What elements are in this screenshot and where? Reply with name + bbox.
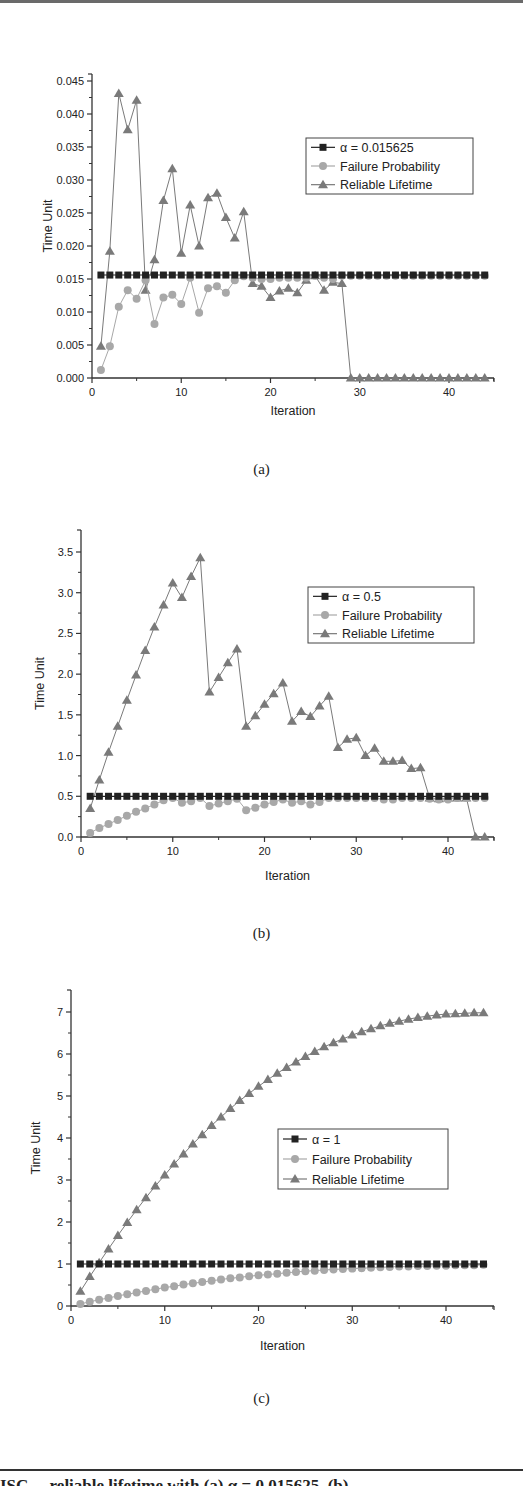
square-marker: [445, 793, 452, 800]
legend-label: α = 0.5: [342, 590, 381, 604]
circle-marker: [114, 816, 122, 824]
x-tick-label: 10: [167, 845, 179, 857]
square-marker: [454, 793, 461, 800]
triangle-marker: [379, 756, 389, 765]
legend-label: Failure Probability: [342, 609, 443, 623]
circle-marker: [86, 1298, 94, 1306]
circle-marker: [213, 282, 221, 290]
square-marker: [325, 793, 332, 800]
circle-marker: [76, 1300, 84, 1308]
legend-label: Failure Probability: [340, 160, 441, 174]
triangle-marker: [397, 755, 407, 764]
square-marker: [435, 793, 442, 800]
triangle-marker: [122, 695, 132, 704]
circle-marker: [288, 799, 296, 807]
square-marker: [240, 272, 247, 279]
triangle-marker: [212, 188, 222, 197]
square-marker: [171, 1261, 178, 1268]
legend-label: α = 0.015625: [340, 141, 414, 155]
circle-marker: [133, 295, 141, 303]
triangle-marker: [282, 1062, 292, 1071]
triangle-marker: [355, 373, 365, 382]
circle-marker: [142, 1287, 150, 1295]
triangle-marker: [177, 593, 187, 602]
y-tick-label: 0.040: [56, 108, 84, 120]
square-marker: [463, 793, 470, 800]
triangle-marker: [75, 1286, 85, 1295]
square-marker: [258, 272, 265, 279]
circle-marker: [204, 284, 212, 292]
circle-marker: [124, 286, 132, 294]
triangle-marker: [168, 578, 178, 587]
x-tick-label: 20: [252, 1314, 264, 1326]
square-marker: [246, 1261, 253, 1268]
square-marker: [471, 1261, 478, 1268]
square-marker: [199, 1261, 206, 1268]
y-tick-label: 1.0: [58, 750, 73, 762]
square-marker: [236, 1261, 243, 1268]
axes: 0.0000.0050.0100.0150.0200.0250.0300.035…: [56, 74, 494, 398]
x-axis-title: Iteration: [265, 869, 310, 883]
circle-marker: [217, 1276, 225, 1284]
square-marker: [206, 793, 213, 800]
square-marker: [399, 793, 406, 800]
square-marker: [330, 1261, 337, 1268]
y-tick-label: 0.0: [58, 831, 73, 843]
legend-square-marker: [292, 1136, 299, 1143]
square-marker: [276, 272, 283, 279]
circle-marker: [283, 1269, 291, 1277]
square-marker: [312, 272, 319, 279]
circle-marker: [150, 320, 158, 328]
series-triangle: [96, 89, 490, 382]
triangle-marker: [324, 691, 334, 700]
square-marker: [205, 272, 212, 279]
triangle-marker: [360, 751, 370, 760]
square-marker: [188, 793, 195, 800]
square-marker: [267, 272, 274, 279]
square-marker: [215, 793, 222, 800]
triangle-marker: [460, 1008, 470, 1017]
square-marker: [344, 793, 351, 800]
x-tick-label: 40: [440, 1314, 452, 1326]
x-tick-label: 10: [175, 386, 187, 398]
triangle-marker: [94, 775, 104, 784]
circle-marker: [208, 1277, 216, 1285]
y-tick-label: 2.0: [58, 668, 73, 680]
series-circle: [86, 794, 489, 837]
circle-marker: [86, 829, 94, 837]
triangle-marker: [390, 373, 400, 382]
circle-marker: [264, 1271, 272, 1279]
circle-marker: [198, 1278, 206, 1286]
square-marker: [208, 1261, 215, 1268]
triangle-marker: [194, 241, 204, 250]
circle-marker: [161, 1284, 169, 1292]
chart-c: 01234567010203040IterationTime Unitα = 1…: [0, 940, 523, 1360]
square-marker: [329, 272, 336, 279]
square-marker: [133, 1261, 140, 1268]
triangle-marker: [278, 678, 288, 687]
series-circle: [76, 1261, 487, 1308]
circle-marker: [215, 800, 223, 808]
y-axis-title: Time Unit: [41, 199, 55, 253]
circle-marker: [123, 1290, 131, 1298]
square-marker: [316, 793, 323, 800]
circle-marker: [236, 1273, 244, 1281]
y-tick-label: 0.005: [56, 339, 84, 351]
square-marker: [293, 1261, 300, 1268]
y-tick-label: 3: [57, 1174, 63, 1186]
square-marker: [264, 1261, 271, 1268]
triangle-marker: [85, 804, 95, 813]
triangle-marker: [444, 373, 454, 382]
series-square: [87, 793, 489, 800]
square-marker: [161, 1261, 168, 1268]
square-marker: [105, 1261, 112, 1268]
square-marker: [142, 793, 149, 800]
square-marker: [311, 1261, 318, 1268]
triangle-marker: [415, 763, 425, 772]
x-axis-title: Iteration: [260, 1339, 305, 1353]
square-marker: [227, 1261, 234, 1268]
square-marker: [321, 1261, 328, 1268]
triangle-marker: [186, 571, 196, 580]
square-marker: [377, 1261, 384, 1268]
triangle-marker: [221, 213, 231, 222]
